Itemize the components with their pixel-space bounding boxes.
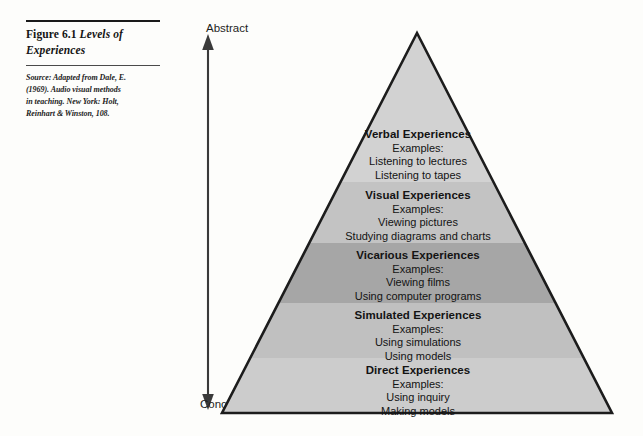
source-line-1: Source: Adapted from Dale, E. [26, 73, 126, 82]
level-examples-label-vicarious: Examples: [212, 263, 624, 277]
level-title-simulated: Simulated Experiences [212, 309, 624, 323]
level-examples-label-direct: Examples: [212, 378, 624, 392]
level-example-visual-2: Studying diagrams and charts [212, 230, 624, 244]
source-line-2: (1969). Audio visual methods [26, 85, 121, 94]
level-examples-label-verbal: Examples: [212, 142, 624, 156]
level-example-direct-2: Making models [212, 405, 624, 419]
figure-page: Figure 6.1 Levels of Experiences Source:… [0, 0, 643, 436]
level-examples-label-visual: Examples: [212, 203, 624, 217]
level-example-visual-1: Viewing pictures [212, 216, 624, 230]
figure-source-note: Source: Adapted from Dale, E. (1969). Au… [26, 72, 160, 121]
caption-rule-top [26, 20, 160, 22]
source-line-3: in teaching. New York: Holt, [26, 97, 119, 106]
pyramid-level-simulated: Simulated Experiences Examples: Using si… [212, 309, 624, 363]
level-example-simulated-2: Using models [212, 350, 624, 364]
level-examples-label-simulated: Examples: [212, 323, 624, 337]
pyramid-level-verbal: Verbal Experiences Examples: Listening t… [212, 128, 624, 182]
level-example-simulated-1: Using simulations [212, 336, 624, 350]
level-title-visual: Visual Experiences [212, 189, 624, 203]
level-example-verbal-1: Listening to lectures [212, 155, 624, 169]
figure-caption-block: Figure 6.1 Levels of Experiences Source:… [26, 20, 160, 120]
figure-title: Figure 6.1 Levels of Experiences [26, 27, 160, 59]
pyramid-level-visual: Visual Experiences Examples: Viewing pic… [212, 189, 624, 243]
levels-of-experience-pyramid: Verbal Experiences Examples: Listening t… [212, 24, 624, 424]
pyramid-level-vicarious: Vicarious Experiences Examples: Viewing … [212, 249, 624, 303]
figure-number: Figure 6.1 [26, 28, 77, 40]
level-title-verbal: Verbal Experiences [212, 128, 624, 142]
pyramid-labels: Verbal Experiences Examples: Listening t… [212, 24, 624, 424]
level-example-verbal-2: Listening to tapes [212, 169, 624, 183]
level-example-vicarious-2: Using computer programs [212, 290, 624, 304]
source-line-4: Reinhart & Winston, 108. [26, 109, 110, 118]
level-title-vicarious: Vicarious Experiences [212, 249, 624, 263]
caption-rule-middle [26, 65, 160, 66]
pyramid-level-direct: Direct Experiences Examples: Using inqui… [212, 364, 624, 418]
level-example-vicarious-1: Viewing films [212, 276, 624, 290]
level-example-direct-1: Using inquiry [212, 391, 624, 405]
level-title-direct: Direct Experiences [212, 364, 624, 378]
